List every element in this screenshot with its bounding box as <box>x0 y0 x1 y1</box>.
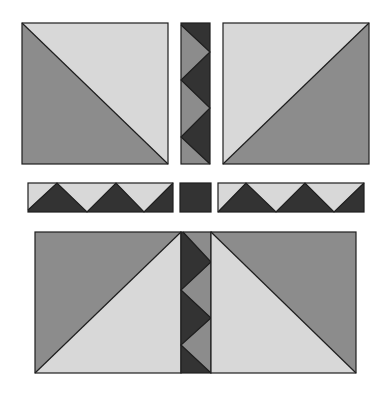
dark-square <box>180 183 211 212</box>
sashing-top-vertical <box>181 23 210 164</box>
sashing-right-horizontal <box>218 183 364 212</box>
block-bottom-left <box>35 232 181 373</box>
cornerstone-center <box>180 183 211 212</box>
sashing-left-horizontal <box>28 183 173 212</box>
block-top-left <box>22 23 168 164</box>
quilt-diagram <box>0 0 386 403</box>
block-top-right <box>223 23 369 164</box>
block-bottom-right <box>211 232 356 373</box>
sashing-bottom-vertical <box>181 232 211 373</box>
